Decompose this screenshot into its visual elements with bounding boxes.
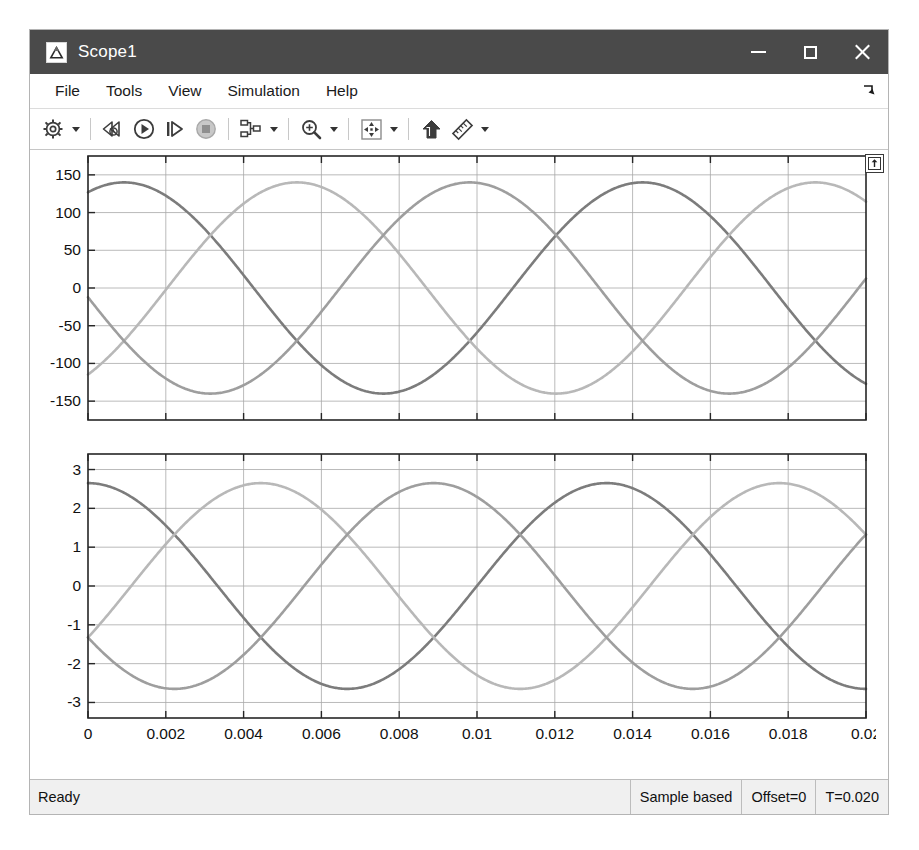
close-icon[interactable]: [836, 30, 888, 74]
voltage-plot-ytick-label: -150: [50, 392, 81, 409]
voltage-plot-ytick-label: 0: [72, 279, 81, 296]
status-offset: Offset=0: [741, 780, 815, 814]
ruler-icon[interactable]: [447, 114, 477, 144]
voltage-plot-ytick-label: -50: [59, 317, 82, 334]
gear-icon[interactable]: [38, 114, 68, 144]
current-plot-xtick-label: 0.002: [146, 725, 185, 742]
current-plot-xtick-label: 0: [84, 725, 93, 742]
step-forward-icon[interactable]: [160, 114, 190, 144]
measurements-dropdown-caret-icon[interactable]: [478, 114, 492, 144]
rewind-icon[interactable]: [98, 114, 128, 144]
signal-layout-dropdown-caret-icon[interactable]: [267, 114, 281, 144]
voltage-plot-ytick-label: -100: [50, 354, 81, 371]
stop-icon[interactable]: [191, 114, 221, 144]
current-plot-xtick-label: 0.006: [302, 725, 341, 742]
menu-help[interactable]: Help: [313, 79, 371, 103]
jump-to-model-icon[interactable]: [416, 114, 446, 144]
autoscale-icon[interactable]: [356, 114, 386, 144]
window-title: Scope1: [78, 42, 137, 62]
current-plot: 3210-1-2-300.0020.0040.0060.0080.010.012…: [67, 454, 876, 742]
status-frame-mode: Sample based: [630, 780, 742, 814]
gear-dropdown-caret-icon[interactable]: [69, 114, 83, 144]
toolbar-separator: [228, 118, 229, 140]
current-plot-xtick-label: 0.008: [380, 725, 419, 742]
screenshot-root: Scope1 File Tools View Simulation Help: [0, 0, 919, 850]
voltage-plot-ytick-label: 50: [64, 241, 82, 258]
current-plot-xtick-label: 0.016: [691, 725, 730, 742]
toolbar-separator: [408, 118, 409, 140]
current-plot-ytick-label: 1: [72, 538, 81, 555]
current-plot-ytick-label: -2: [67, 655, 81, 672]
menu-bar: File Tools View Simulation Help: [30, 74, 888, 109]
current-plot-ytick-label: 0: [72, 577, 81, 594]
voltage-plot: 150100500-50-100-150: [50, 156, 866, 420]
undock-arrow-icon[interactable]: [862, 83, 876, 97]
toolbar-separator: [348, 118, 349, 140]
signal-layout-icon[interactable]: [236, 114, 266, 144]
minimize-icon[interactable]: [732, 30, 784, 74]
scope-window: Scope1 File Tools View Simulation Help: [29, 29, 889, 815]
toolbar-separator: [288, 118, 289, 140]
voltage-plot-ytick-label: 100: [55, 204, 81, 221]
current-plot-xtick-label: 0.014: [613, 725, 652, 742]
voltage-plot-ytick-label: 150: [55, 166, 81, 183]
status-bar: Ready Sample based Offset=0 T=0.020: [30, 779, 888, 814]
toolbar-separator: [90, 118, 91, 140]
axes-container: 150100500-50-100-1503210-1-2-300.0020.00…: [30, 150, 888, 779]
title-bar: Scope1: [30, 30, 888, 74]
menu-tools[interactable]: Tools: [93, 79, 155, 103]
window-controls: [732, 30, 888, 74]
autoscale-dropdown-caret-icon[interactable]: [387, 114, 401, 144]
menu-file[interactable]: File: [42, 79, 93, 103]
current-plot-ytick-label: 2: [72, 499, 81, 516]
current-plot-ytick-label: -1: [67, 616, 81, 633]
matlab-triangle-icon: [46, 42, 67, 63]
maximize-icon[interactable]: [784, 30, 836, 74]
scope-chart[interactable]: 150100500-50-100-1503210-1-2-300.0020.00…: [30, 150, 876, 748]
current-plot-ytick-label: -3: [67, 693, 81, 710]
status-time: T=0.020: [815, 780, 888, 814]
current-plot-ytick-label: 3: [72, 461, 81, 478]
current-plot-xtick-label: 0.01: [462, 725, 492, 742]
zoom-dropdown-caret-icon[interactable]: [327, 114, 341, 144]
play-icon[interactable]: [129, 114, 159, 144]
menu-view[interactable]: View: [155, 79, 214, 103]
current-plot-xtick-label: 0.004: [224, 725, 263, 742]
status-ready: Ready: [30, 780, 630, 814]
current-plot-xtick-label: 0.012: [535, 725, 574, 742]
current-plot-xtick-label: 0.018: [769, 725, 808, 742]
menu-simulation[interactable]: Simulation: [215, 79, 313, 103]
current-plot-xtick-label: 0.02: [851, 725, 876, 742]
scope-display-area: 150100500-50-100-1503210-1-2-300.0020.00…: [30, 150, 888, 779]
tool-bar: [30, 109, 888, 150]
zoom-in-icon[interactable]: [296, 114, 326, 144]
maximize-axes-icon[interactable]: [865, 154, 884, 173]
